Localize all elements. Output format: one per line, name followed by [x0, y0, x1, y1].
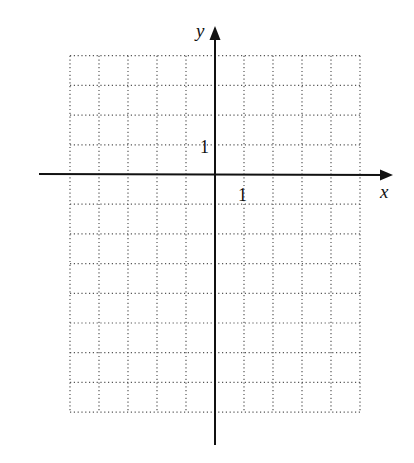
- x-axis: [39, 174, 384, 175]
- y-axis-arrow-icon: [210, 26, 221, 40]
- y-unit-label: 1: [200, 137, 209, 157]
- y-axis-label: y: [194, 20, 205, 41]
- coordinate-plane: x y 1 1: [0, 0, 414, 463]
- x-unit-label: 1: [238, 185, 247, 205]
- x-axis-label: x: [379, 181, 389, 202]
- x-axis-arrow-icon: [380, 170, 393, 181]
- coordinate-grid-svg: x y 1 1: [0, 0, 414, 463]
